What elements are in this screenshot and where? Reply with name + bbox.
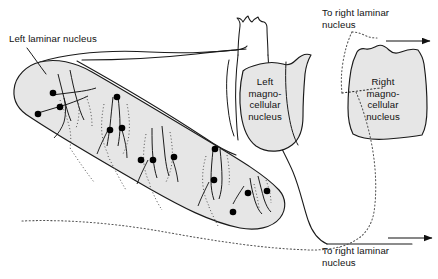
label-to-right-laminar-nucleus-top: To right laminar nucleus	[322, 7, 426, 30]
label-right-magnocellular-nucleus: Right magno- cellular nucleus	[352, 76, 414, 122]
label-left-magnocellular-nucleus: Left magno- cellular nucleus	[236, 76, 294, 122]
label-left-laminar-nucleus: Left laminar nucleus	[9, 33, 97, 45]
label-to-right-laminar-nucleus-bottom: To right laminar nucleus	[322, 245, 426, 268]
figure-root: Left laminar nucleus Left magno- cellula…	[0, 0, 438, 279]
